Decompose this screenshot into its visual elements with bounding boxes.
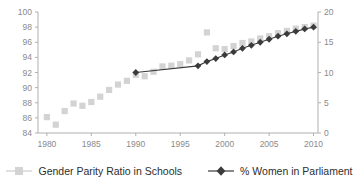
axis-right-tick-label: 15 [324,37,334,47]
diamond-line-marker-icon [208,165,234,177]
axis-x-tick-label: 2000 [215,139,234,149]
data-point-marker [212,55,219,62]
data-point-marker [222,46,228,52]
legend-item-percent-women-in-parliament[interactable]: % Women in Parliament [208,165,352,177]
axis-x-tick-label: 1990 [126,139,145,149]
data-point-marker [97,94,103,100]
square-marker-icon [6,165,32,177]
axis-x-tick-label: 2010 [304,139,323,149]
legend-label-schools: Gender Parity Ratio in Schools [38,165,182,177]
data-point-marker [195,51,201,57]
axis-right-tick-label: 0 [324,128,329,138]
axis-x-tick-label: 2005 [260,139,279,149]
chart-legend: Gender Parity Ratio in Schools % Women i… [0,160,359,182]
axis-left: 8486889092949698100 [18,7,38,138]
series-gender-parity-ratio-in-schools [44,23,317,128]
axis-x-tick-label: 1985 [82,139,101,149]
data-point-marker [142,73,148,79]
data-point-marker [70,100,76,106]
data-point-marker [150,69,156,75]
data-point-marker [106,87,112,93]
data-point-marker [203,58,210,65]
axis-right-tick-label: 20 [324,7,334,17]
axis-right-tick-label: 10 [324,68,334,78]
data-point-marker [195,62,202,69]
data-point-marker [124,78,130,84]
axis-left-tick-label: 92 [23,68,33,78]
legend-label-parliament: % Women in Parliament [240,165,352,177]
legend-item-gender-parity-ratio-in-schools[interactable]: Gender Parity Ratio in Schools [6,165,182,177]
data-point-marker [44,114,50,120]
axis-x-tick-label: 1995 [171,139,190,149]
axis-left-tick-label: 88 [23,98,33,108]
axis-x: 1980198519901995200020052010 [37,133,323,149]
data-point-marker [168,63,174,69]
axis-x-tick-labels: 1980198519901995200020052010 [37,133,323,149]
data-point-marker [230,43,236,49]
data-point-marker [53,122,59,128]
data-point-marker [88,99,94,105]
chart-plot-area: 8486889092949698100 05101520 19801985199… [0,0,359,160]
data-point-marker [79,103,85,109]
axis-left-tick-label: 96 [23,37,33,47]
axis-right-tick-labels: 05101520 [318,7,334,138]
axis-left-tick-label: 86 [23,113,33,123]
axis-left-tick-label: 84 [23,128,33,138]
data-point-marker [177,61,183,67]
data-point-marker [186,57,192,63]
axis-left-tick-labels: 8486889092949698100 [18,7,38,138]
data-point-marker [62,108,68,114]
axis-x-tick-label: 1980 [37,139,56,149]
data-point-marker [221,52,228,59]
axis-left-tick-label: 100 [18,7,32,17]
axis-left-tick-label: 94 [23,52,33,62]
data-point-marker [230,49,237,56]
chart-container: 8486889092949698100 05101520 19801985199… [0,0,359,184]
data-point-marker [115,82,121,88]
data-point-marker [213,45,219,51]
axis-left-tick-label: 90 [23,83,33,93]
axis-right: 05101520 [318,7,334,138]
axis-right-tick-label: 5 [324,98,329,108]
data-point-marker [204,29,210,35]
data-point-marker [159,63,165,69]
axis-left-tick-label: 98 [23,22,33,32]
